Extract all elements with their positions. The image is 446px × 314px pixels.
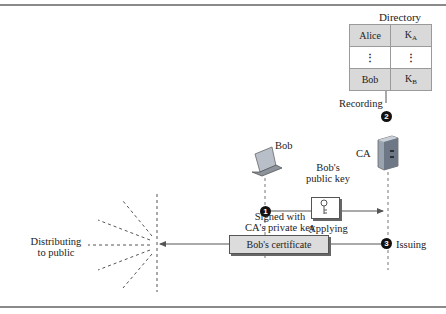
directory-row: Alice KA bbox=[350, 25, 432, 47]
directory-key: ⋮ bbox=[391, 47, 432, 69]
directory-name: Bob bbox=[350, 69, 391, 91]
public-key-label: Bob's public key bbox=[298, 162, 358, 184]
bob-label: Bob bbox=[275, 140, 293, 151]
directory-row: Bob KB bbox=[350, 69, 432, 91]
directory-key: KA bbox=[391, 25, 432, 47]
directory-table: Alice KA ⋮ ⋮ Bob KB bbox=[349, 24, 432, 91]
signed-label: Signed with CA's private key bbox=[238, 211, 322, 233]
directory-row: ⋮ ⋮ bbox=[350, 47, 432, 69]
server-icon bbox=[378, 136, 398, 170]
signed-label-line2: CA's private key bbox=[238, 222, 322, 233]
directory-name: Alice bbox=[350, 25, 391, 47]
directory-key: KB bbox=[391, 69, 432, 91]
public-key-label-line2: public key bbox=[298, 173, 358, 184]
directory-name: ⋮ bbox=[350, 47, 391, 69]
step-3-badge: 3 bbox=[381, 238, 392, 249]
bobs-certificate: Bob's certificate bbox=[229, 235, 329, 254]
public-key-label-line1: Bob's bbox=[298, 162, 358, 173]
recording-label: Recording bbox=[339, 98, 383, 109]
laptop-icon bbox=[252, 147, 282, 176]
directory-title: Directory bbox=[360, 12, 440, 23]
issuing-label: Issuing bbox=[396, 239, 426, 250]
signed-label-line1: Signed with bbox=[238, 211, 322, 222]
step-2-badge: 2 bbox=[381, 111, 392, 122]
distributing-label-line2: to public bbox=[22, 247, 90, 258]
distributing-label-line1: Distributing bbox=[22, 236, 90, 247]
distributing-label: Distributing to public bbox=[22, 236, 90, 258]
ca-label: CA bbox=[356, 148, 371, 159]
